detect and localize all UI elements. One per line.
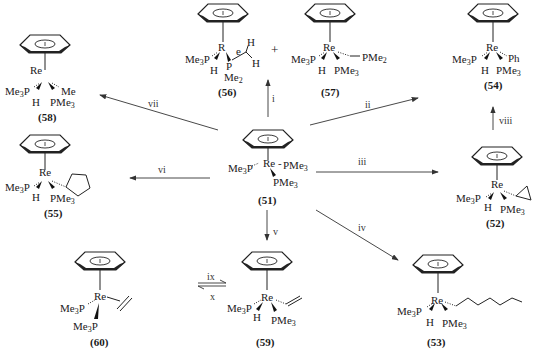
- h-59: H: [253, 311, 261, 323]
- h-57: H: [318, 64, 326, 76]
- pme3-58: PMe3: [50, 96, 75, 108]
- label-59: (59): [256, 336, 274, 348]
- re-59: Re: [261, 291, 273, 303]
- me3p-52: Me3P: [456, 192, 481, 204]
- label-58: (58): [38, 111, 56, 123]
- h-53: H: [426, 316, 434, 328]
- re-55: Re: [39, 166, 51, 178]
- me3p-55: Me3P: [5, 181, 30, 193]
- condition-v: v: [273, 226, 278, 237]
- me3p-53: Me3P: [397, 305, 422, 317]
- pme3-54: PMe3: [496, 64, 521, 76]
- label-51: (51): [258, 194, 276, 206]
- pme2-57: PMe2: [362, 51, 387, 63]
- pme3-bottom-51: PMe3: [273, 176, 298, 188]
- re-60: Re: [94, 290, 106, 302]
- label-60: (60): [90, 336, 108, 348]
- r-56: R: [218, 41, 225, 53]
- condition-viii: viii: [499, 115, 512, 126]
- me3p-56: Me3P: [185, 53, 210, 65]
- me3p-51: Me3P: [228, 162, 253, 174]
- pme3-57: PMe3: [334, 64, 359, 76]
- condition-iii: iii: [358, 156, 366, 167]
- label-53: (53): [427, 336, 445, 348]
- me3p-54: Me3P: [452, 53, 477, 65]
- arrow-vii: [100, 95, 218, 130]
- arrow-iv: [316, 210, 398, 260]
- pme3-59: PMe3: [271, 314, 296, 326]
- condition-ii: ii: [365, 99, 371, 110]
- h-56: H: [210, 64, 218, 76]
- re-57: Re: [323, 41, 335, 53]
- label-57: (57): [321, 86, 339, 98]
- pme3-55: PMe3: [50, 192, 75, 204]
- h-bottom-56: H: [252, 57, 260, 69]
- h-55: H: [32, 191, 40, 203]
- condition-vii: vii: [148, 98, 159, 109]
- condition-vi: vi: [158, 164, 166, 175]
- me3p-bottom-60: Me3P: [73, 320, 98, 332]
- me2-56: Me2: [224, 71, 243, 83]
- compound-52-structure: [472, 147, 531, 200]
- me3p-59: Me3P: [227, 302, 252, 314]
- compound-55-structure: [20, 135, 90, 196]
- h-52: H: [484, 201, 492, 213]
- re-58: Re: [30, 64, 42, 76]
- compound-58-structure: [20, 35, 70, 90]
- re-51: Re -: [263, 157, 282, 169]
- e-56: e: [236, 45, 241, 57]
- compound-53-structure: [413, 255, 522, 311]
- h-54: H: [481, 64, 489, 76]
- re-54: Re: [486, 41, 498, 53]
- label-54: (54): [484, 79, 502, 91]
- me3p-top-60: Me3P: [60, 302, 85, 314]
- me3p-57: Me3P: [291, 53, 316, 65]
- pme3-52: PMe3: [500, 203, 525, 215]
- condition-ix: ix: [207, 271, 215, 282]
- plus-sign: +: [271, 44, 278, 56]
- label-55: (55): [44, 207, 62, 219]
- condition-x: x: [210, 291, 215, 302]
- label-56: (56): [218, 86, 236, 98]
- re-52: Re: [491, 178, 503, 190]
- ph-54: Ph: [508, 52, 520, 64]
- condition-iv: iv: [358, 222, 366, 233]
- label-52: (52): [486, 217, 504, 229]
- me3p-58: Me3P: [5, 85, 30, 97]
- h-top-56: H: [247, 36, 255, 48]
- pme3-right-51: PMe3: [283, 159, 308, 171]
- re-53: Re: [431, 294, 443, 306]
- arrow-ii: [310, 98, 418, 125]
- pme3-53: PMe3: [442, 317, 467, 329]
- h-58: H: [32, 96, 40, 108]
- condition-i: i: [272, 93, 275, 104]
